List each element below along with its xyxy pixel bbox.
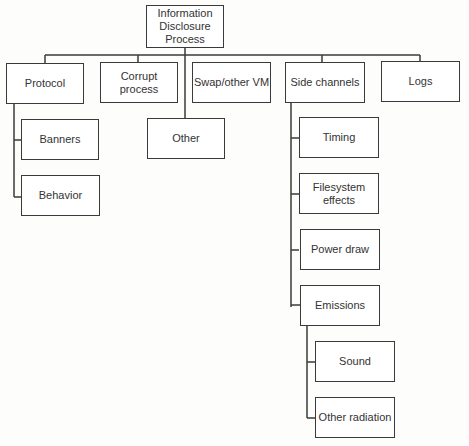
node-label: Filesystem effects — [300, 181, 378, 207]
node-behavior: Behavior — [21, 175, 100, 216]
node-label: Process — [157, 33, 212, 46]
node-other-radiation: Other radiation — [315, 397, 395, 438]
node-label: Banners — [40, 133, 81, 146]
node-label: Protocol — [25, 77, 65, 90]
node-other: Other — [147, 118, 225, 159]
node-swap-other-vm: Swap/other VM — [192, 62, 271, 103]
node-label: Information — [157, 7, 212, 20]
node-sound: Sound — [315, 341, 395, 382]
node-label: Power draw — [311, 243, 369, 256]
node-label: Other — [172, 132, 200, 145]
node-label: Behavior — [39, 189, 82, 202]
node-label: Corrupt process — [101, 70, 177, 96]
node-emissions: Emissions — [300, 285, 380, 326]
diagram-canvas: InformationDisclosureProcess Protocol Co… — [0, 0, 469, 446]
node-label: Sound — [339, 355, 371, 368]
node-timing: Timing — [299, 117, 379, 158]
node-logs: Logs — [381, 61, 460, 102]
node-label: Other radiation — [319, 411, 392, 424]
node-side-channels: Side channels — [285, 62, 365, 103]
node-banners: Banners — [21, 119, 99, 160]
node-label: Timing — [323, 131, 356, 144]
node-corrupt-process: Corrupt process — [100, 62, 178, 103]
node-label: Emissions — [315, 299, 365, 312]
node-label: Logs — [409, 75, 433, 88]
node-label: Disclosure — [157, 20, 212, 33]
node-protocol: Protocol — [6, 63, 84, 104]
node-power-draw: Power draw — [300, 229, 380, 270]
node-filesystem-effects: Filesystem effects — [299, 173, 379, 214]
node-root: InformationDisclosureProcess — [146, 5, 224, 48]
node-label: Side channels — [290, 76, 359, 89]
node-label: Swap/other VM — [194, 76, 269, 89]
